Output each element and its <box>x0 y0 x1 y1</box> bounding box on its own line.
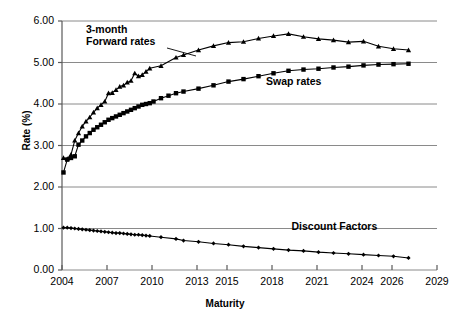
data-point-marker <box>114 231 118 235</box>
data-point-marker <box>346 64 350 68</box>
data-point-marker <box>181 89 185 93</box>
series-line-0 <box>64 34 409 159</box>
data-point-marker <box>80 138 84 142</box>
data-point-marker <box>391 254 395 258</box>
data-point-marker <box>158 63 163 68</box>
data-point-marker <box>129 232 133 236</box>
y-axis-tick-label: 1.00 <box>14 223 54 234</box>
x-axis-tick-label: 2018 <box>250 276 294 287</box>
data-point-marker <box>106 230 110 234</box>
data-point-marker <box>301 249 305 253</box>
data-point-marker <box>106 118 110 122</box>
data-point-marker <box>331 65 335 69</box>
data-point-marker <box>125 232 129 236</box>
data-point-marker <box>181 238 185 242</box>
chart-figure: Rate (%) Maturity 0.001.002.003.004.005.… <box>0 0 450 323</box>
data-point-marker <box>159 96 163 100</box>
data-point-marker <box>133 233 137 237</box>
data-point-marker <box>95 125 99 129</box>
data-point-marker <box>406 62 410 66</box>
data-point-marker <box>316 67 320 71</box>
x-axis-tick-label: 2021 <box>295 276 339 287</box>
data-point-marker <box>166 94 170 98</box>
data-point-marker <box>174 237 178 241</box>
data-point-marker <box>271 247 275 251</box>
data-point-marker <box>226 243 230 247</box>
x-axis-title: Maturity <box>0 298 450 309</box>
x-axis-tick-label: 2026 <box>370 276 414 287</box>
data-point-marker <box>196 240 200 244</box>
data-point-marker <box>226 79 230 83</box>
data-point-marker <box>103 120 107 124</box>
data-point-marker <box>121 111 125 115</box>
data-point-marker <box>110 116 114 120</box>
x-axis-tick-label: 2015 <box>205 276 249 287</box>
data-point-marker <box>148 101 152 105</box>
data-point-marker <box>69 156 73 160</box>
data-point-marker <box>151 99 155 103</box>
x-axis-tick-label: 2004 <box>40 276 84 287</box>
series-annotation-label: 3-month Forward rates <box>86 23 155 47</box>
data-point-marker <box>256 74 260 78</box>
x-axis-tick-label: 2007 <box>85 276 129 287</box>
data-point-marker <box>376 62 380 66</box>
data-point-marker <box>174 91 178 95</box>
data-point-marker <box>211 241 215 245</box>
data-point-marker <box>140 233 144 237</box>
data-point-marker <box>286 248 290 252</box>
data-point-marker <box>114 114 118 118</box>
data-point-marker <box>406 256 410 260</box>
data-point-marker <box>132 71 137 76</box>
data-point-marker <box>76 142 80 146</box>
data-point-marker <box>128 78 133 83</box>
data-point-marker <box>118 113 122 117</box>
data-point-marker <box>91 128 95 132</box>
data-point-marker <box>102 99 107 104</box>
data-point-marker <box>316 250 320 254</box>
data-point-marker <box>346 252 350 256</box>
data-point-marker <box>301 67 305 71</box>
data-point-marker <box>136 104 140 108</box>
x-axis-tick-label: 2010 <box>130 276 174 287</box>
series-annotation-label: Swap rates <box>266 75 321 87</box>
data-point-marker <box>196 86 200 90</box>
data-point-marker <box>129 108 133 112</box>
data-point-marker <box>241 77 245 81</box>
data-point-marker <box>133 106 137 110</box>
y-axis-tick-label: 5.00 <box>14 57 54 68</box>
data-point-marker <box>88 131 92 135</box>
data-point-marker <box>286 69 290 73</box>
data-point-marker <box>99 123 103 127</box>
data-point-marker <box>110 231 114 235</box>
data-point-marker <box>211 83 215 87</box>
data-point-marker <box>99 229 103 233</box>
data-point-marker <box>361 63 365 67</box>
data-point-marker <box>65 157 69 161</box>
data-point-marker <box>256 245 260 249</box>
data-point-marker <box>73 154 77 158</box>
data-point-marker <box>72 138 77 143</box>
data-point-marker <box>73 226 77 230</box>
data-point-marker <box>65 226 69 230</box>
data-point-marker <box>61 170 65 174</box>
y-axis-tick-label: 0.00 <box>14 264 54 275</box>
data-point-marker <box>241 244 245 248</box>
data-point-marker <box>80 227 84 231</box>
data-point-marker <box>69 226 73 230</box>
y-axis-tick-label: 4.00 <box>14 98 54 109</box>
data-point-marker <box>84 134 88 138</box>
data-point-marker <box>136 233 140 237</box>
data-point-marker <box>76 130 81 135</box>
data-point-marker <box>148 234 152 238</box>
data-point-marker <box>95 229 99 233</box>
data-point-marker <box>159 235 163 239</box>
x-axis-tick-label: 2029 <box>415 276 450 287</box>
data-point-marker <box>118 231 122 235</box>
data-point-marker <box>361 253 365 257</box>
y-axis-tick-label: 6.00 <box>14 15 54 26</box>
series-annotation-label: Discount Factors <box>292 220 378 232</box>
data-point-marker <box>391 62 395 66</box>
data-point-marker <box>125 109 129 113</box>
y-axis-tick-label: 2.00 <box>14 181 54 192</box>
data-point-marker <box>121 231 125 235</box>
